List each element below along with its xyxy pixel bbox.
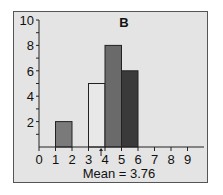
x-tick-label: 4 <box>101 152 108 167</box>
histogram-chart: 2468100123456789BMean = 3.76 <box>0 0 223 195</box>
y-tick-label: 10 <box>20 13 34 28</box>
x-tick-label: 0 <box>35 152 42 167</box>
y-tick-label: 6 <box>27 64 34 79</box>
y-tick-label: 2 <box>27 115 34 130</box>
x-tick-label: 7 <box>151 152 158 167</box>
x-tick-label: 3 <box>85 152 92 167</box>
x-tick-label: 5 <box>118 152 125 167</box>
x-tick-label: 1 <box>52 152 59 167</box>
y-tick-label: 4 <box>27 89 34 104</box>
mean-label-text: Mean = 3.76 <box>83 166 156 181</box>
y-tick-label: 8 <box>27 38 34 53</box>
x-tick-label: 8 <box>167 152 174 167</box>
histogram-bar <box>56 122 73 147</box>
histogram-bar <box>105 45 122 147</box>
histogram-bar <box>122 71 139 147</box>
histogram-bar <box>89 84 106 148</box>
x-tick-label: 2 <box>68 152 75 167</box>
x-tick-label: 6 <box>134 152 141 167</box>
x-tick-label: 9 <box>184 152 191 167</box>
chart-title-text: B <box>119 15 128 30</box>
